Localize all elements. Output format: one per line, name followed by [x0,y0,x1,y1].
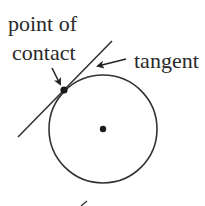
contact-point [60,86,67,93]
tangent-arrow-icon [98,59,126,66]
center-point [100,126,106,132]
tangent-diagram: point of contact tangent [0,0,205,206]
contact-arrow-icon [52,68,60,84]
label-tangent: tangent [134,50,199,72]
stray-mark [81,201,87,206]
label-contact: contact [12,42,76,64]
label-point-of: point of [8,13,77,35]
